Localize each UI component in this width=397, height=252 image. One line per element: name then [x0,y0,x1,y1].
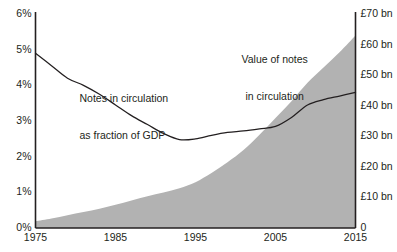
x-tick-1985: 1985 [93,232,139,243]
y-left-tick-3: 3% [2,115,32,126]
y-right-tick-6: £60 bn [361,39,397,50]
x-tick-1975: 1975 [13,232,59,243]
annotation-notes-fraction-gdp: Notes in circulation as fraction of GDP [80,67,169,167]
y-right-tick-7: £70 bn [361,8,397,19]
y-right-tick-2: £20 bn [361,161,397,172]
y-left-tick-5: 5% [2,44,32,55]
y-left-tick-1: 1% [2,186,32,197]
x-tick-2015: 2015 [333,232,379,243]
annotation-value-line-2: in circulation [242,90,308,103]
x-tick-1995: 1995 [173,232,219,243]
y-left-tick-6: 6% [2,8,32,19]
annotation-gdp-line-2: as fraction of GDP [80,129,169,142]
y-right-tick-3: £30 bn [361,130,397,141]
annotation-value-of-notes: Value of notes in circulation [242,28,308,128]
annotation-gdp-line-1: Notes in circulation [80,92,169,105]
y-left-tick-4: 4% [2,79,32,90]
y-left-tick-2: 2% [2,151,32,162]
annotation-value-line-1: Value of notes [242,53,308,66]
y-right-tick-1: £10 bn [361,191,397,202]
y-right-tick-5: £50 bn [361,69,397,80]
y-right-tick-4: £40 bn [361,100,397,111]
x-tick-2005: 2005 [253,232,299,243]
